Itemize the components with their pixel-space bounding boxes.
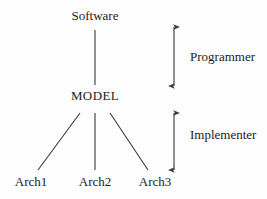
node-arch1: Arch1 — [15, 175, 48, 188]
annotation-label-implementer: Implementer — [190, 128, 256, 141]
node-arch3: Arch3 — [139, 175, 172, 188]
node-software: Software — [72, 9, 119, 22]
diagram-edge-layer — [0, 0, 267, 199]
annotation-label-programmer: Programmer — [190, 50, 255, 63]
node-arch2: Arch2 — [79, 175, 112, 188]
edge-model-arch1 — [38, 113, 80, 170]
node-model: MODEL — [71, 89, 119, 102]
diagram-canvas: Software MODEL Arch1 Arch2 Arch3 Program… — [0, 0, 267, 199]
edge-model-arch3 — [110, 113, 148, 170]
